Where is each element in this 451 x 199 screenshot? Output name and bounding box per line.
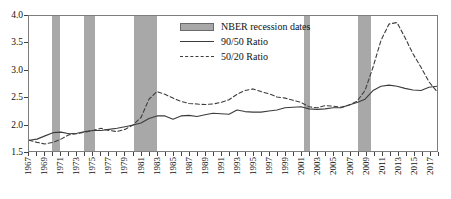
x-tick-mark — [430, 152, 431, 156]
legend-item-90-50: 90/50 Ratio — [180, 34, 315, 49]
legend-label-50-20: 50/20 Ratio — [221, 52, 268, 62]
y-axis — [0, 15, 25, 152]
x-tick-label: 2017 — [425, 157, 435, 175]
chart-page: NBER recession dates 90/50 Ratio 50/20 R… — [0, 0, 451, 199]
x-tick-mark — [301, 152, 302, 156]
x-tick-mark — [189, 152, 190, 156]
x-tick-label: 1981 — [136, 157, 146, 175]
y-tick-mark — [24, 97, 28, 98]
recession-swatch-icon — [180, 23, 214, 31]
x-tick-mark — [165, 152, 166, 156]
y-tick-label: 3.0 — [11, 65, 23, 75]
x-tick-label: 1983 — [152, 157, 162, 175]
x-tick-mark — [269, 152, 270, 156]
x-tick-mark — [181, 152, 182, 156]
x-tick-label: 2003 — [312, 157, 322, 175]
x-tick-label: 1991 — [216, 157, 226, 175]
y-tick-mark — [24, 125, 28, 126]
x-tick-label: 2007 — [345, 157, 355, 175]
x-tick-label: 1979 — [119, 157, 129, 175]
y-tick-mark — [24, 70, 28, 71]
x-tick-mark — [438, 152, 439, 156]
x-tick-label: 2013 — [393, 157, 403, 175]
x-tick-mark — [68, 152, 69, 156]
x-tick-mark — [350, 152, 351, 156]
x-tick-mark — [390, 152, 391, 156]
x-tick-mark — [197, 152, 198, 156]
x-tick-mark — [333, 152, 334, 156]
x-tick-mark — [317, 152, 318, 156]
legend-item-recession: NBER recession dates — [180, 19, 315, 34]
solid-line-icon — [180, 41, 214, 42]
x-tick-label: 1967 — [23, 157, 33, 175]
x-tick-mark — [406, 152, 407, 156]
y-tick-mark — [24, 15, 28, 16]
x-tick-mark — [100, 152, 101, 156]
y-tick-label: 4.0 — [11, 10, 23, 20]
y-tick-label: 3.5 — [11, 37, 23, 47]
x-tick-mark — [261, 152, 262, 156]
x-tick-mark — [84, 152, 85, 156]
x-tick-label: 1969 — [39, 157, 49, 175]
x-tick-mark — [221, 152, 222, 156]
series-line-90-50 — [29, 85, 437, 140]
x-tick-mark — [124, 152, 125, 156]
x-tick-mark — [414, 152, 415, 156]
chart-legend: NBER recession dates 90/50 Ratio 50/20 R… — [180, 19, 315, 64]
y-tick-label: 1.5 — [11, 147, 23, 157]
x-tick-mark — [28, 152, 29, 156]
x-tick-mark — [213, 152, 214, 156]
x-tick-mark — [342, 152, 343, 156]
x-tick-mark — [358, 152, 359, 156]
x-tick-label: 1995 — [248, 157, 258, 175]
legend-item-50-20: 50/20 Ratio — [180, 49, 315, 64]
x-tick-mark — [382, 152, 383, 156]
x-tick-mark — [253, 152, 254, 156]
x-tick-mark — [309, 152, 310, 156]
x-tick-mark — [366, 152, 367, 156]
x-tick-mark — [141, 152, 142, 156]
legend-label-90-50: 90/50 Ratio — [221, 37, 268, 47]
x-tick-mark — [398, 152, 399, 156]
x-tick-mark — [149, 152, 150, 156]
x-tick-label: 1977 — [103, 157, 113, 175]
x-tick-mark — [374, 152, 375, 156]
x-tick-mark — [133, 152, 134, 156]
x-tick-label: 1971 — [55, 157, 65, 175]
legend-label-recession: NBER recession dates — [221, 22, 310, 32]
x-tick-mark — [76, 152, 77, 156]
x-tick-mark — [293, 152, 294, 156]
dashed-line-icon — [180, 56, 214, 57]
x-tick-mark — [229, 152, 230, 156]
x-tick-mark — [116, 152, 117, 156]
x-tick-label: 1999 — [280, 157, 290, 175]
x-tick-mark — [285, 152, 286, 156]
x-tick-label: 2011 — [377, 157, 387, 175]
x-tick-mark — [205, 152, 206, 156]
x-tick-mark — [60, 152, 61, 156]
x-tick-label: 2005 — [328, 157, 338, 175]
x-tick-mark — [422, 152, 423, 156]
x-tick-label: 1997 — [264, 157, 274, 175]
x-tick-mark — [36, 152, 37, 156]
x-tick-label: 1973 — [71, 157, 81, 175]
x-tick-label: 1985 — [168, 157, 178, 175]
x-tick-mark — [92, 152, 93, 156]
x-tick-label: 2001 — [296, 157, 306, 175]
x-tick-mark — [157, 152, 158, 156]
x-tick-mark — [277, 152, 278, 156]
x-tick-label: 1987 — [184, 157, 194, 175]
x-tick-label: 1975 — [87, 157, 97, 175]
x-tick-label: 2015 — [409, 157, 419, 175]
y-tick-mark — [24, 42, 28, 43]
y-tick-label: 2.5 — [11, 92, 23, 102]
x-tick-mark — [52, 152, 53, 156]
x-tick-label: 1993 — [232, 157, 242, 175]
x-tick-mark — [237, 152, 238, 156]
x-tick-mark — [173, 152, 174, 156]
x-tick-label: 1989 — [200, 157, 210, 175]
x-tick-mark — [44, 152, 45, 156]
x-tick-label: 2009 — [361, 157, 371, 175]
x-tick-mark — [108, 152, 109, 156]
x-tick-mark — [245, 152, 246, 156]
